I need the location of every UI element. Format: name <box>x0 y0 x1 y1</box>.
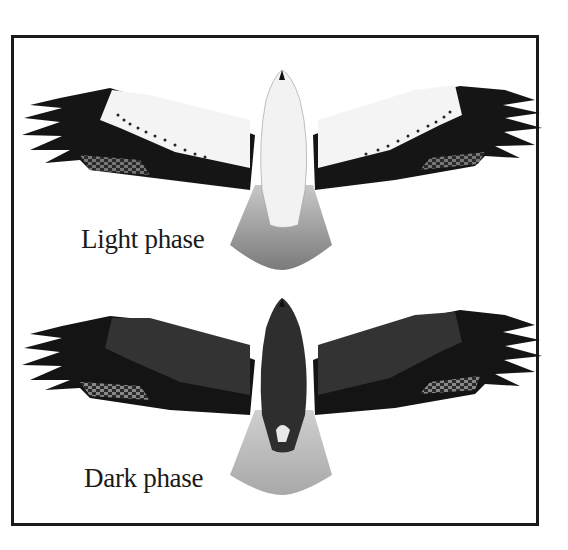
body <box>261 70 307 228</box>
right-wing <box>313 85 542 190</box>
light-phase-label: Light phase <box>81 224 204 255</box>
right-wing <box>313 310 542 415</box>
left-wing <box>22 88 255 190</box>
dark-phase-label: Dark phase <box>84 463 203 494</box>
left-wing <box>22 316 255 415</box>
